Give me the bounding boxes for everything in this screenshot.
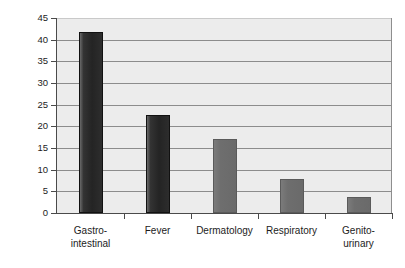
y-axis-tick bbox=[51, 18, 57, 19]
plot-right-border bbox=[391, 18, 392, 213]
bar bbox=[79, 32, 103, 213]
x-axis-tick bbox=[325, 214, 326, 219]
y-axis-tick-label: 10 bbox=[18, 165, 48, 175]
gridline bbox=[57, 40, 392, 41]
x-axis-category-label: Fever bbox=[124, 224, 191, 237]
bar bbox=[213, 139, 237, 213]
bar bbox=[146, 115, 170, 213]
y-axis-tick bbox=[51, 61, 57, 62]
y-axis-line bbox=[56, 18, 57, 214]
x-axis-category-label: Gastro-intestinal bbox=[57, 224, 124, 250]
y-axis-tick bbox=[51, 148, 57, 149]
x-axis-category-label: Respiratory bbox=[258, 224, 325, 237]
y-axis-tick-label: 35 bbox=[18, 56, 48, 66]
y-axis-tick bbox=[51, 105, 57, 106]
y-axis-tick-label: 40 bbox=[18, 35, 48, 45]
y-axis-tick-label: 25 bbox=[18, 100, 48, 110]
y-axis-tick bbox=[51, 83, 57, 84]
x-axis-line bbox=[56, 213, 393, 214]
y-axis-tick-label: 20 bbox=[18, 121, 48, 131]
x-axis-tick bbox=[392, 214, 393, 219]
y-axis-tick bbox=[51, 126, 57, 127]
bar bbox=[280, 179, 304, 213]
plot-area bbox=[57, 18, 392, 213]
gridline bbox=[57, 61, 392, 62]
y-axis-tick-label: 45 bbox=[18, 13, 48, 23]
y-axis-tick-label: 0 bbox=[18, 208, 48, 218]
y-axis-tick bbox=[51, 40, 57, 41]
plot-top-border bbox=[57, 18, 392, 19]
bar bbox=[347, 197, 371, 213]
y-axis-tick bbox=[51, 191, 57, 192]
y-axis-tick-label: 15 bbox=[18, 143, 48, 153]
y-axis-tick-label: 30 bbox=[18, 78, 48, 88]
x-axis-tick bbox=[191, 214, 192, 219]
gridline bbox=[57, 83, 392, 84]
y-axis-tick bbox=[51, 170, 57, 171]
x-axis-tick bbox=[258, 214, 259, 219]
y-axis-tick-label: 5 bbox=[18, 186, 48, 196]
x-axis-category-label: Genito-urinary bbox=[325, 224, 392, 250]
gridline bbox=[57, 105, 392, 106]
bar-chart: % of ill returned travelers 454035302520… bbox=[0, 0, 405, 268]
gridline bbox=[57, 126, 392, 127]
x-axis-tick bbox=[124, 214, 125, 219]
x-axis-category-label: Dermatology bbox=[191, 224, 258, 237]
